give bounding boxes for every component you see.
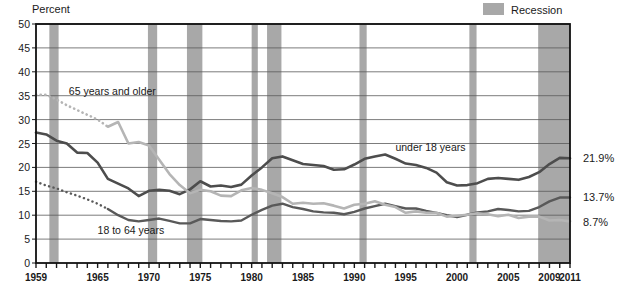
y-tick-40: 40 <box>18 66 30 78</box>
recession-legend-swatch <box>483 3 504 15</box>
x-tick-label-1995: 1995 <box>395 272 418 283</box>
y-tick-45: 45 <box>18 42 30 54</box>
end-label-8.7: 8.7% <box>583 216 608 228</box>
x-tick-label-1975: 1975 <box>189 272 212 283</box>
y-tick-5: 5 <box>24 233 30 245</box>
end-label-21.9: 21.9% <box>583 152 614 164</box>
y-tick-50: 50 <box>18 18 30 30</box>
x-tick-label-1990: 1990 <box>343 272 366 283</box>
y-axis-title: Percent <box>32 3 70 15</box>
x-tick-label-1980: 1980 <box>241 272 264 283</box>
x-tick-label-2000: 2000 <box>446 272 469 283</box>
x-tick-label-1970: 1970 <box>138 272 161 283</box>
recession-legend-label: Recession <box>511 4 562 16</box>
x-tick-label-1959: 1959 <box>25 272 48 283</box>
y-tick-35: 35 <box>18 90 30 102</box>
legend: Recession <box>483 3 562 16</box>
chart-background <box>0 0 629 295</box>
x-tick-label-2009: 2009 <box>538 272 561 283</box>
poverty-rate-chart: Recession Percent 05101520253035404550 1… <box>0 0 629 295</box>
annotation-label-2: under 18 years <box>395 141 465 153</box>
x-tick-label-1985: 1985 <box>292 272 315 283</box>
y-tick-25: 25 <box>18 138 30 150</box>
x-tick-label-2011: 2011 <box>559 272 581 283</box>
y-tick-0: 0 <box>24 257 30 269</box>
annotation-label-1: 18 to 64 years <box>98 224 165 236</box>
y-tick-30: 30 <box>18 114 30 126</box>
y-tick-10: 10 <box>18 209 30 221</box>
x-tick-label-2005: 2005 <box>497 272 520 283</box>
end-label-13.7: 13.7% <box>583 191 614 203</box>
y-tick-15: 15 <box>18 185 30 197</box>
annotation-label-0: 65 years and older <box>69 85 156 97</box>
x-axis-tick-labels: 1959196519701975198019851990199520002005… <box>25 272 581 283</box>
x-tick-label-1965: 1965 <box>86 272 109 283</box>
y-tick-20: 20 <box>18 161 30 173</box>
